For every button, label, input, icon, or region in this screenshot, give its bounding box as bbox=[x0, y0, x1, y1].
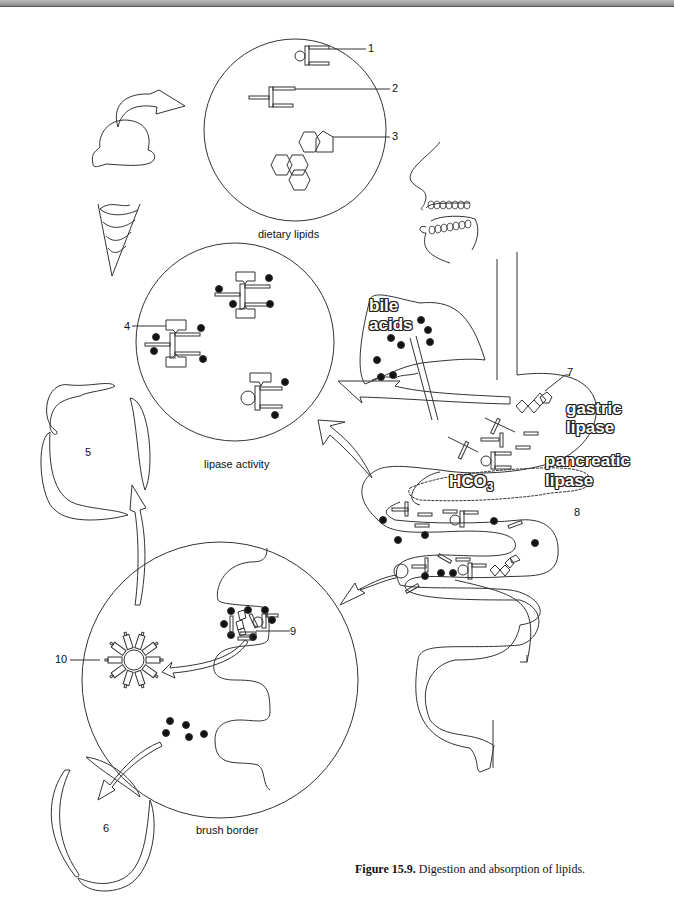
pancreatic-lipase-label-line1: pancreatic bbox=[545, 452, 630, 469]
callout-2: 2 bbox=[392, 82, 398, 94]
callout-1: 1 bbox=[368, 42, 374, 54]
lipase-complex-icon bbox=[215, 272, 274, 318]
callout-3: 3 bbox=[392, 130, 398, 142]
bile-acids-label-line2: acids bbox=[369, 316, 412, 333]
callout-5: 5 bbox=[85, 446, 91, 458]
face-profile-icon bbox=[410, 142, 478, 263]
cholesterol-icon bbox=[271, 131, 390, 190]
gastric-lipase-label-line1: gastric bbox=[566, 400, 622, 417]
pancreatic-lipase-label-line2: lipase bbox=[545, 472, 593, 489]
esophagus bbox=[497, 252, 517, 380]
callout-6: 6 bbox=[103, 822, 109, 834]
callout-10: 10 bbox=[55, 653, 67, 665]
bicarbonate-subscript: 3 bbox=[487, 480, 494, 494]
figure-caption-text: Digestion and absorption of lipids. bbox=[416, 862, 585, 876]
arrow-to-lipase bbox=[338, 381, 510, 404]
bicarbonate-label: HCO3 bbox=[449, 473, 493, 496]
micelle-icon bbox=[221, 607, 291, 641]
callout-8: 8 bbox=[574, 506, 580, 518]
vessel-5-icon bbox=[41, 384, 150, 520]
phospholipid-icon bbox=[249, 87, 390, 107]
callout-9: 9 bbox=[290, 625, 296, 637]
figure-caption: Figure 15.9. Digestion and absorption of… bbox=[355, 862, 585, 877]
ice-cream-icon bbox=[92, 120, 154, 276]
lipase-activity-panel bbox=[132, 243, 334, 441]
lipase-complex-icon bbox=[132, 320, 207, 367]
gastric-lipase-label-line2: lipase bbox=[566, 419, 614, 436]
lipase-activity-title: lipase activity bbox=[204, 458, 269, 470]
phospholipid-icon bbox=[485, 418, 515, 434]
arrow-to-brush-border bbox=[340, 575, 396, 605]
arrow-to-lipase bbox=[318, 420, 372, 478]
brush-border-panel bbox=[70, 542, 358, 818]
arrow-to-vessel-5 bbox=[130, 485, 146, 605]
brush-border-title: brush border bbox=[196, 824, 258, 836]
bile-acids-label-line1: bile bbox=[369, 297, 398, 314]
lipase-complex-icon bbox=[241, 373, 289, 419]
chylomicron-icon bbox=[70, 631, 163, 688]
bicarbonate-text: HCO bbox=[449, 472, 487, 491]
curved-arrow-icon bbox=[116, 90, 185, 127]
callout-7: 7 bbox=[567, 366, 573, 378]
dietary-lipids-title: dietary lipids bbox=[258, 228, 319, 240]
callout-4: 4 bbox=[124, 320, 130, 332]
dietary-lipids-panel bbox=[204, 39, 390, 221]
figure-caption-label: Figure 15.9. bbox=[355, 862, 416, 876]
intestine-icon bbox=[362, 467, 558, 772]
arrow-to-vessel-6 bbox=[98, 742, 162, 800]
arrow-to-chylomicron bbox=[162, 640, 248, 678]
